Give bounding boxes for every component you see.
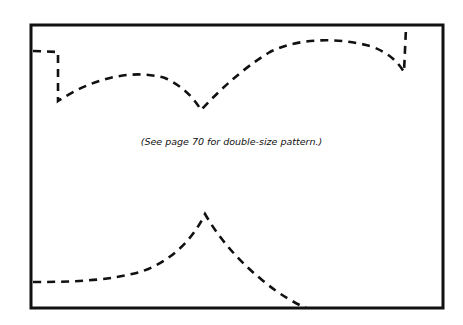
top-cut-line bbox=[33, 28, 406, 110]
bottom-cut-line bbox=[33, 214, 306, 308]
pattern-frame bbox=[31, 25, 443, 308]
pattern-diagram bbox=[0, 0, 463, 325]
pattern-caption: (See page 70 for double-size pattern.) bbox=[0, 136, 463, 147]
